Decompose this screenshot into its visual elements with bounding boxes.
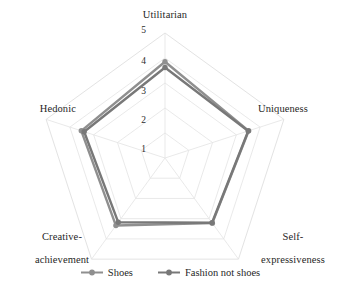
axis-label-self-expressiveness-line2: expressiveness — [261, 254, 325, 265]
data-point — [209, 220, 214, 225]
legend-label-fashion-not-shoes: Fashion not shoes — [185, 267, 260, 278]
data-point — [81, 129, 86, 134]
radar-chart: 5 4 3 2 1 Utilitarian Uniqueness Self- e… — [0, 0, 340, 284]
tick-label-5: 5 — [132, 25, 146, 35]
axis-label-self-expressiveness-line1: Self- — [283, 231, 304, 242]
data-point — [162, 65, 167, 70]
axis-label-uniqueness: Uniqueness — [258, 103, 338, 115]
data-point — [116, 220, 121, 225]
axis-label-hedonic: Hedonic — [6, 103, 76, 115]
tick-label-3: 3 — [132, 86, 146, 96]
legend-symbol-fashion-not-shoes — [157, 268, 181, 277]
tick-label-2: 2 — [132, 115, 146, 125]
legend-item-shoes[interactable]: Shoes — [80, 267, 133, 278]
grid-spoke-4 — [46, 119, 165, 158]
legend-item-fashion-not-shoes[interactable]: Fashion not shoes — [157, 267, 260, 278]
axis-label-creative-achievement-line2: achievement — [35, 254, 89, 265]
chart-legend: Shoes Fashion not shoes — [0, 267, 340, 278]
grid-spoke-2 — [165, 158, 238, 259]
axis-label-self-expressiveness: Self- expressiveness — [248, 219, 338, 265]
legend-label-shoes: Shoes — [108, 267, 133, 278]
axis-label-utilitarian: Utilitarian — [115, 9, 215, 21]
grid-spoke-1 — [165, 119, 284, 158]
data-point — [162, 59, 167, 64]
series-line — [84, 68, 248, 223]
tick-label-1: 1 — [132, 144, 146, 154]
legend-symbol-shoes — [80, 268, 104, 277]
tick-label-4: 4 — [132, 56, 146, 66]
axis-label-creative-achievement: Creative- achievement — [14, 219, 110, 265]
data-point — [246, 128, 251, 133]
axis-label-creative-achievement-line1: Creative- — [42, 231, 82, 242]
